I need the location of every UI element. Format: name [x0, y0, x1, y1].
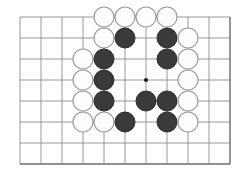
white-stone[interactable]: [178, 70, 198, 90]
star-point-marker: [144, 78, 148, 82]
black-stone[interactable]: [157, 28, 177, 48]
white-stone[interactable]: [178, 49, 198, 69]
black-stone[interactable]: [94, 91, 114, 111]
go-board-canvas[interactable]: [0, 0, 242, 178]
black-stone[interactable]: [157, 91, 177, 111]
black-stone[interactable]: [94, 49, 114, 69]
white-stone[interactable]: [178, 112, 198, 132]
board-stones-layer[interactable]: [73, 7, 198, 132]
black-stone[interactable]: [115, 112, 135, 132]
white-stone[interactable]: [136, 7, 156, 27]
white-stone[interactable]: [94, 7, 114, 27]
black-stone[interactable]: [115, 28, 135, 48]
white-stone[interactable]: [73, 49, 93, 69]
go-board-figure: [0, 0, 242, 178]
white-stone[interactable]: [94, 112, 114, 132]
black-stone[interactable]: [94, 70, 114, 90]
black-stone[interactable]: [157, 112, 177, 132]
board-star-points: [144, 78, 148, 82]
white-stone[interactable]: [73, 112, 93, 132]
white-stone[interactable]: [178, 28, 198, 48]
white-stone[interactable]: [73, 91, 93, 111]
black-stone[interactable]: [136, 91, 156, 111]
white-stone[interactable]: [115, 7, 135, 27]
white-stone[interactable]: [157, 7, 177, 27]
black-stone[interactable]: [157, 49, 177, 69]
white-stone[interactable]: [94, 28, 114, 48]
white-stone[interactable]: [73, 70, 93, 90]
white-stone[interactable]: [178, 91, 198, 111]
